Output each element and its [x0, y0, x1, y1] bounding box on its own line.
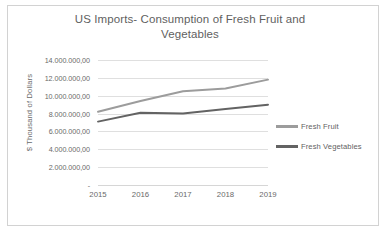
- legend-label: Fresh Fruit: [301, 122, 339, 131]
- series-lines: [98, 60, 268, 185]
- legend-color-swatch: [276, 125, 298, 128]
- legend-label: Fresh Vegetables: [301, 142, 362, 151]
- x-axis-tick-label: 2019: [259, 190, 276, 199]
- x-axis-tick-label: 2016: [132, 190, 149, 199]
- chart-legend: Fresh FruitFresh Vegetables: [276, 122, 380, 162]
- chart-title: US Imports- Consumption of Fresh Fruit a…: [40, 12, 340, 42]
- x-axis-tick-labels: 20152016201720182019: [98, 190, 268, 204]
- y-axis-tick-labels: -2.000.000,004.000.000,006.000.000,008.0…: [18, 60, 94, 185]
- y-axis-tick-label: 6.000.000,00: [49, 127, 90, 136]
- x-axis-tick-label: 2015: [89, 190, 106, 199]
- chart-title-line-2: Vegetables: [40, 27, 340, 42]
- plot-area: [98, 60, 268, 185]
- legend-item: Fresh Fruit: [276, 122, 380, 131]
- chart-title-line-1: US Imports- Consumption of Fresh Fruit a…: [40, 12, 340, 27]
- y-axis-tick-label: 12.000.000,00: [45, 73, 90, 82]
- chart-container: US Imports- Consumption of Fresh Fruit a…: [0, 0, 386, 231]
- y-axis-tick-label: 2.000.000,00: [49, 163, 90, 172]
- series-line: [98, 105, 268, 122]
- y-axis-tick-label: 10.000.000,00: [45, 91, 90, 100]
- y-axis-tick-label: -: [88, 181, 90, 190]
- y-axis-tick-label: 4.000.000,00: [49, 145, 90, 154]
- x-axis-tick-label: 2017: [174, 190, 191, 199]
- x-axis-tick-label: 2018: [217, 190, 234, 199]
- gridline: [98, 185, 268, 186]
- y-axis-tick-label: 8.000.000,00: [49, 109, 90, 118]
- y-axis-tick-label: 14.000.000,00: [45, 56, 90, 65]
- legend-item: Fresh Vegetables: [276, 142, 380, 151]
- legend-color-swatch: [276, 145, 298, 148]
